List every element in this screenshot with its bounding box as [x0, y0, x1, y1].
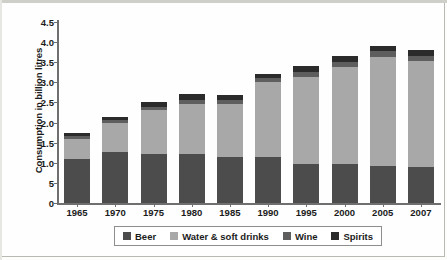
bar-1985 [217, 95, 243, 203]
legend-label: Wine [295, 231, 318, 242]
y-axis-tick-mark [54, 163, 58, 164]
bar-segment-beer [255, 157, 281, 203]
y-axis-tick-mark [54, 22, 58, 23]
x-axis-tick-mark [115, 203, 116, 207]
bar-1980 [179, 94, 205, 203]
x-axis-tick-mark [345, 203, 346, 207]
bar-2007 [408, 50, 434, 203]
y-axis-tick-mark [54, 203, 58, 204]
bar-segment-beer [217, 157, 243, 203]
y-axis-tick-mark [54, 143, 58, 144]
bar-segment-water-soft-drinks [293, 77, 319, 163]
y-axis-tick-label: 4.5 [20, 17, 54, 28]
legend-swatch-icon [331, 232, 339, 240]
bar-1970 [102, 117, 128, 203]
y-axis-tick-mark [54, 183, 58, 184]
bar-segment-beer [332, 164, 358, 203]
x-axis-tick-mark [383, 203, 384, 207]
y-axis-tick-mark [54, 62, 58, 63]
bar-segment-beer [64, 159, 90, 203]
scan-edge-left [0, 0, 2, 260]
legend-label: Beer [135, 231, 156, 242]
x-axis-tick-mark [77, 203, 78, 207]
bar-segment-beer [408, 167, 434, 203]
bar-segment-beer [179, 154, 205, 203]
y-axis-tick-label: 2.5 [20, 97, 54, 108]
bar-2000 [332, 56, 358, 203]
y-axis-tick-label: 1.5 [20, 137, 54, 148]
bar-2005 [370, 46, 396, 203]
legend-item-wine: Wine [283, 231, 318, 242]
legend-label: Water & soft drinks [182, 231, 269, 242]
bar-segment-water-soft-drinks [141, 110, 167, 154]
chart-legend: BeerWater & soft drinksWineSpirits [114, 226, 382, 246]
y-axis-tick-label: 5 [20, 177, 54, 188]
bar-1990 [255, 74, 281, 203]
bar-1975 [141, 102, 167, 203]
y-axis-tick-label: 3.0 [20, 77, 54, 88]
x-axis-tick-mark [154, 203, 155, 207]
bar-segment-water-soft-drinks [332, 67, 358, 164]
bar-segment-beer [370, 166, 396, 203]
legend-label: Spirits [343, 231, 373, 242]
bar-segment-beer [293, 164, 319, 203]
y-axis-tick-mark [54, 102, 58, 103]
y-axis-tick-label: 1.0 [20, 157, 54, 168]
legend-item-beer: Beer [123, 231, 156, 242]
bar-segment-water-soft-drinks [370, 57, 396, 166]
bar-segment-water-soft-drinks [64, 139, 90, 158]
legend-item-water-soft-drinks: Water & soft drinks [170, 231, 269, 242]
y-axis-tick-label: 3.5 [20, 57, 54, 68]
bar-1965 [64, 133, 90, 203]
bar-segment-water-soft-drinks [179, 104, 205, 154]
x-axis-tick-mark [230, 203, 231, 207]
x-axis-tick-mark [306, 203, 307, 207]
bar-segment-water-soft-drinks [102, 123, 128, 152]
y-axis-tick-mark [54, 42, 58, 43]
bar-segment-beer [102, 152, 128, 203]
bar-segment-beer [141, 154, 167, 203]
y-axis-tick-labels: 4.54.03.53.02.52.01.51.050 [16, 0, 54, 260]
bar-segment-water-soft-drinks [408, 61, 434, 166]
y-axis-tick-label: 0 [20, 198, 54, 209]
x-axis-tick-label: 2007 [398, 207, 444, 218]
x-axis-tick-mark [268, 203, 269, 207]
y-axis-tick-mark [54, 82, 58, 83]
legend-swatch-icon [283, 232, 291, 240]
bar-segment-water-soft-drinks [217, 104, 243, 156]
bar-segment-water-soft-drinks [255, 82, 281, 156]
chart-figure: Consumption in billion litres 4.54.03.53… [0, 0, 447, 260]
scan-edge-top [0, 0, 447, 3]
plot-area [58, 22, 440, 203]
legend-swatch-icon [170, 232, 178, 240]
y-axis-tick-mark [54, 123, 58, 124]
y-axis-tick-label: 2.0 [20, 117, 54, 128]
x-axis-tick-mark [192, 203, 193, 207]
y-axis-tick-label: 4.0 [20, 37, 54, 48]
bar-1995 [293, 66, 319, 203]
legend-swatch-icon [123, 232, 131, 240]
x-axis-tick-mark [421, 203, 422, 207]
legend-item-spirits: Spirits [331, 231, 373, 242]
